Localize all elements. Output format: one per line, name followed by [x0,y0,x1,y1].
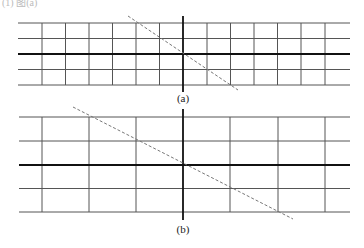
diagram-canvas [0,0,364,248]
caption-b: (b) [177,223,190,235]
caption-a: (a) [177,92,189,104]
grid-diagram-a [18,16,350,92]
grid-diagram-b [19,107,350,220]
